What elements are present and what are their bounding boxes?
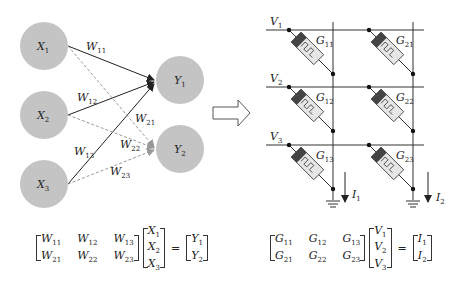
label-g23: G23: [396, 149, 414, 164]
weight-matrix: W11 W12 W13 W21 W22 W23: [36, 235, 139, 261]
conductance-matrix: G11 G12 G13 G21 G22 G23: [270, 235, 365, 261]
label-i1: I1: [351, 188, 361, 203]
label-w12: W12: [77, 91, 97, 106]
input-vector: X1 X2 X3: [143, 228, 165, 268]
memristor-g23: [367, 143, 415, 191]
memristor-g13: [287, 143, 335, 191]
label-v3: V3: [270, 130, 282, 145]
label-v1: V1: [270, 15, 282, 30]
transform-arrow-icon: [213, 100, 250, 126]
label-w11: W11: [86, 40, 106, 55]
input-node-x1: X1: [20, 22, 68, 70]
equals-sign: =: [171, 242, 180, 255]
label-i2: I2: [435, 191, 445, 206]
label-w23: W23: [110, 165, 130, 180]
label-w21: W21: [135, 112, 155, 127]
equation-weights: W11 W12 W13 W21 W22 W23 X1 X2 X3 = Y1 Y2: [36, 228, 208, 268]
label-g22: G22: [396, 91, 414, 106]
memristor-g11: [287, 28, 335, 76]
equals-sign: =: [398, 242, 407, 255]
memristor-g22: [367, 85, 415, 133]
output-node-y1: Y1: [156, 56, 204, 104]
ground-icon: [326, 201, 340, 207]
equation-conductance: G11 G12 G13 G21 G22 G23 V1 V2 V3 = I1 I2: [270, 228, 432, 268]
input-node-x3: X3: [20, 160, 68, 208]
label-v2: V2: [270, 72, 282, 87]
memristor-g21: [367, 28, 415, 76]
input-node-x2: X2: [20, 91, 68, 139]
label-g13: G13: [316, 149, 334, 164]
output-vector: Y1 Y2: [186, 235, 208, 261]
label-g11: G11: [316, 34, 334, 49]
label-w13: W13: [74, 145, 94, 160]
ground-icon: [406, 201, 420, 207]
label-w22: W22: [120, 138, 140, 153]
current-vector: I1 I2: [413, 235, 432, 261]
weight-labels: W11 W12 W13 W21 W22 W23: [74, 40, 155, 180]
label-g12: G12: [316, 91, 334, 106]
voltage-vector: V1 V2 V3: [369, 228, 391, 268]
output-node-y2: Y2: [156, 125, 204, 173]
memristor-g12: [287, 85, 335, 133]
label-g21: G21: [396, 34, 414, 49]
